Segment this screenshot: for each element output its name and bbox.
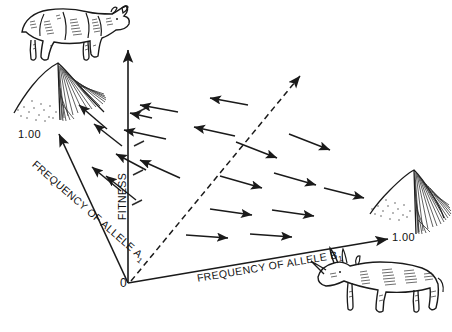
adaptive-landscape-figure: 1.00 1.00 0 FITNESS FREQUENCY OF ALLELE … bbox=[0, 0, 452, 332]
allele-b-max-tick-label: 1.00 bbox=[392, 231, 415, 243]
vector-field-left-basin bbox=[79, 98, 248, 200]
peak-right-stipple bbox=[371, 199, 410, 220]
peak-left bbox=[14, 63, 106, 122]
rhino-indian bbox=[22, 6, 129, 60]
peak-left-stipple bbox=[17, 100, 56, 121]
peak-right-shading bbox=[415, 173, 451, 234]
fitness-axis-ticks bbox=[132, 108, 146, 205]
saddle-ridge-dashed-arrow bbox=[131, 76, 300, 281]
allele-a-max-tick-label: 1.00 bbox=[18, 128, 41, 140]
vector-field-right-basin bbox=[186, 134, 364, 238]
peak-right bbox=[370, 170, 451, 234]
fitness-axis-label: FITNESS bbox=[116, 173, 128, 220]
peak-left-shading bbox=[59, 66, 106, 121]
origin-label: 0 bbox=[120, 276, 127, 290]
